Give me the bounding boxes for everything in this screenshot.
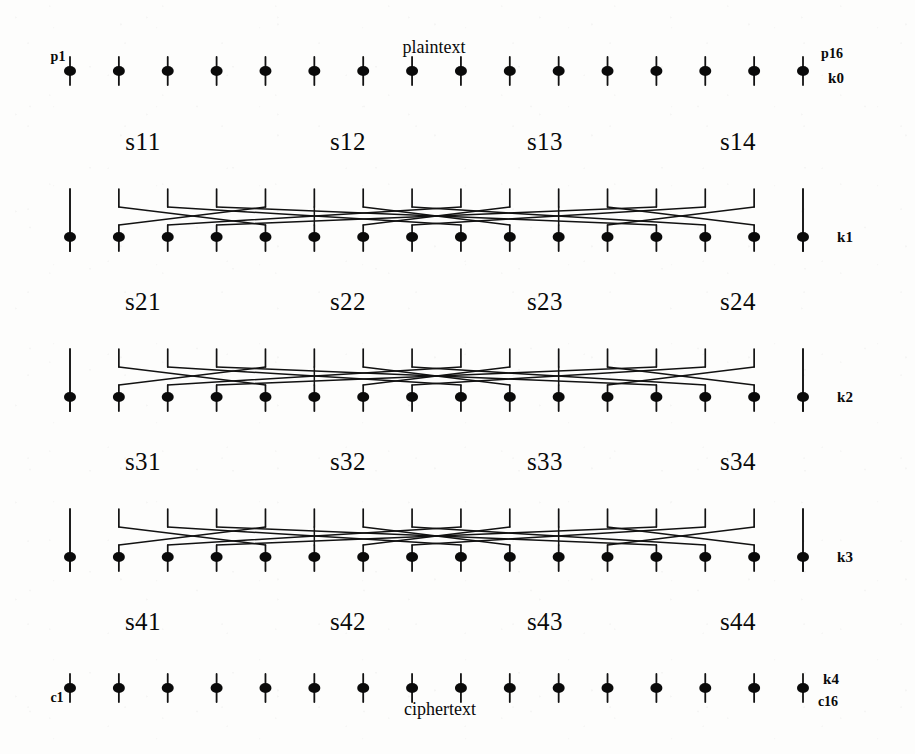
perm-node-row3-bit12 <box>602 552 614 562</box>
perm-node-row3-bit9 <box>455 552 467 562</box>
plaintext-row-node-12 <box>602 66 614 76</box>
sbox-label-s42: s42 <box>330 609 366 634</box>
perm-node-row3-bit14 <box>699 552 711 562</box>
perm-node-row2-bit7 <box>357 392 369 402</box>
plaintext-label: plaintext <box>403 38 466 56</box>
perm-node-row1-bit5 <box>259 232 271 242</box>
perm-node-row2-bit16 <box>797 392 809 402</box>
ciphertext-row-node-13 <box>650 683 662 693</box>
sbox-label-s11: s11 <box>125 129 160 154</box>
subkey-label-k3: k3 <box>837 550 853 565</box>
ciphertext-row-node-16 <box>797 683 809 693</box>
perm-node-row1-bit15 <box>748 232 760 242</box>
perm-node-row2-bit13 <box>650 392 662 402</box>
wire-layer <box>70 57 803 702</box>
perm-node-row3-bit4 <box>211 552 223 562</box>
perm-node-row1-bit8 <box>406 232 418 242</box>
ciphertext-row-node-12 <box>602 683 614 693</box>
sbox-label-s31: s31 <box>125 449 161 474</box>
perm-node-row3-bit10 <box>504 552 516 562</box>
plaintext-row-node-5 <box>259 66 271 76</box>
perm-node-row3-bit11 <box>553 552 565 562</box>
perm-node-row1-bit7 <box>357 232 369 242</box>
sbox-label-s32: s32 <box>330 449 366 474</box>
sbox-label-s23: s23 <box>527 289 563 314</box>
figure-canvas: plaintext p1 p16 k0 s11 s12 s13 s14 s21 … <box>0 0 915 754</box>
subkey-label-k2: k2 <box>837 390 853 405</box>
perm-node-row1-bit10 <box>504 232 516 242</box>
perm-node-row3-bit2 <box>113 552 125 562</box>
perm-node-row3-bit15 <box>748 552 760 562</box>
plaintext-row-node-8 <box>406 66 418 76</box>
ciphertext-row-node-11 <box>553 683 565 693</box>
plaintext-row-node-10 <box>504 66 516 76</box>
perm-node-row2-bit9 <box>455 392 467 402</box>
subkey-label-k1: k1 <box>837 230 853 245</box>
plaintext-row-node-15 <box>748 66 760 76</box>
perm-node-row2-bit1 <box>64 392 76 402</box>
subkey-label-k0: k0 <box>828 71 844 86</box>
ciphertext-row-node-10 <box>504 683 516 693</box>
sbox-label-s13: s13 <box>527 129 563 154</box>
ciphertext-row-node-4 <box>211 683 223 693</box>
ciphertext-row-node-14 <box>699 683 711 693</box>
perm-node-row2-bit6 <box>308 392 320 402</box>
ciphertext-row-node-8 <box>406 683 418 693</box>
plaintext-row-node-14 <box>699 66 711 76</box>
perm-node-row3-bit5 <box>259 552 271 562</box>
perm-node-row3-bit6 <box>308 552 320 562</box>
perm-node-row2-bit8 <box>406 392 418 402</box>
perm-node-row1-bit9 <box>455 232 467 242</box>
bit-label-c1: c1 <box>50 691 63 705</box>
perm-node-row2-bit4 <box>211 392 223 402</box>
perm-node-row1-bit16 <box>797 232 809 242</box>
perm-node-row1-bit3 <box>162 232 174 242</box>
plaintext-row-node-3 <box>162 66 174 76</box>
plaintext-row-node-1 <box>64 66 76 76</box>
bit-label-c16: c16 <box>818 695 838 709</box>
sbox-label-s21: s21 <box>125 289 161 314</box>
ciphertext-row-node-7 <box>357 683 369 693</box>
perm-node-row1-bit1 <box>64 232 76 242</box>
perm-node-row2-bit14 <box>699 392 711 402</box>
perm-node-row2-bit11 <box>553 392 565 402</box>
perm-node-row2-bit3 <box>162 392 174 402</box>
perm-node-row1-bit2 <box>113 232 125 242</box>
perm-node-row1-bit11 <box>553 232 565 242</box>
perm-node-row1-bit13 <box>650 232 662 242</box>
sbox-label-s12: s12 <box>330 129 366 154</box>
perm-node-row1-bit4 <box>211 232 223 242</box>
perm-node-row2-bit10 <box>504 392 516 402</box>
ciphertext-row-node-3 <box>162 683 174 693</box>
sbox-label-s43: s43 <box>527 609 563 634</box>
network-wiring <box>0 0 915 754</box>
sbox-label-s33: s33 <box>527 449 563 474</box>
perm-node-row1-bit12 <box>602 232 614 242</box>
plaintext-row-node-9 <box>455 66 467 76</box>
ciphertext-row-node-5 <box>259 683 271 693</box>
ciphertext-row-node-9 <box>455 683 467 693</box>
perm-node-row2-bit5 <box>259 392 271 402</box>
plaintext-row-node-7 <box>357 66 369 76</box>
perm-node-row3-bit16 <box>797 552 809 562</box>
node-layer <box>64 66 809 693</box>
sbox-label-s22: s22 <box>330 289 366 314</box>
plaintext-row-node-11 <box>553 66 565 76</box>
plaintext-row-node-4 <box>211 66 223 76</box>
perm-node-row2-bit2 <box>113 392 125 402</box>
perm-node-row1-bit14 <box>699 232 711 242</box>
perm-node-row3-bit8 <box>406 552 418 562</box>
sbox-label-s41: s41 <box>125 609 161 634</box>
plaintext-row-node-13 <box>650 66 662 76</box>
perm-node-row3-bit7 <box>357 552 369 562</box>
perm-node-row1-bit6 <box>308 232 320 242</box>
perm-node-row3-bit3 <box>162 552 174 562</box>
subkey-label-k4: k4 <box>823 672 839 687</box>
perm-node-row3-bit13 <box>650 552 662 562</box>
perm-node-row2-bit15 <box>748 392 760 402</box>
perm-node-row3-bit1 <box>64 552 76 562</box>
sbox-label-s44: s44 <box>720 609 756 634</box>
sbox-label-s14: s14 <box>720 129 756 154</box>
plaintext-row-node-6 <box>308 66 320 76</box>
ciphertext-row-node-2 <box>113 683 125 693</box>
